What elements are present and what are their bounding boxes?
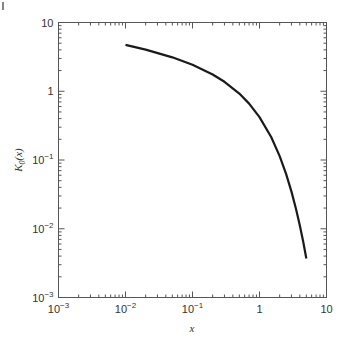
tick-label: 1 xyxy=(256,303,262,315)
tick-label: 10−2 xyxy=(32,221,54,235)
tick-label: 10 xyxy=(320,303,332,315)
x-axis-title: x xyxy=(189,322,195,334)
tick-label: 10−3 xyxy=(32,290,54,304)
chart: 10−310−210−111010110−110−210−3 x K0(x) xyxy=(0,0,347,342)
tick-label: 10−2 xyxy=(115,301,137,315)
tick-label: 1 xyxy=(47,85,53,97)
y-axis-title: K0(x) xyxy=(12,148,27,173)
tick-label: 10−1 xyxy=(32,152,54,166)
data-line-k0 xyxy=(126,45,307,259)
tick-label: 10 xyxy=(41,17,53,29)
tick-label: 10−3 xyxy=(48,301,70,315)
tick-label: 10−1 xyxy=(182,301,204,315)
